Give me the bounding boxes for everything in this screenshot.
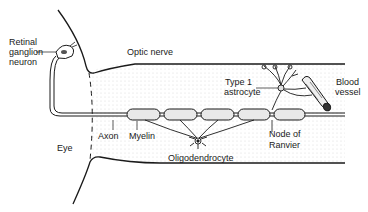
optic-nerve-diagram: Retinal ganglion neuron Optic nerve Type… [0,0,368,212]
retinal-ganglion-label-2: ganglion [9,47,43,57]
type1-astrocyte-label-2: astrocyte [224,87,261,97]
eye-wall-lower [73,157,345,204]
node-of-ranvier-label-2: Ranvier [269,140,300,150]
oligodendrocyte-label: Oligodendrocyte [168,153,234,163]
eye-wall-upper [58,10,345,73]
node-of-ranvier-label-1: Node of [269,129,301,139]
axon-label: Axon [98,131,119,141]
blood-vessel-label-1: Blood [336,77,359,87]
type1-astrocyte-label-1: Type 1 [225,77,252,87]
retinal-ganglion-label-3: neuron [9,57,37,67]
eye-label: Eye [57,143,73,153]
blood-vessel-label-2: vessel [335,87,361,97]
diagram-drawing [0,0,368,212]
myelin-segments [127,109,305,120]
myelin-label: Myelin [129,131,155,141]
retinal-ganglion-label-1: Retinal [9,37,37,47]
optic-nerve-label: Optic nerve [127,47,173,57]
